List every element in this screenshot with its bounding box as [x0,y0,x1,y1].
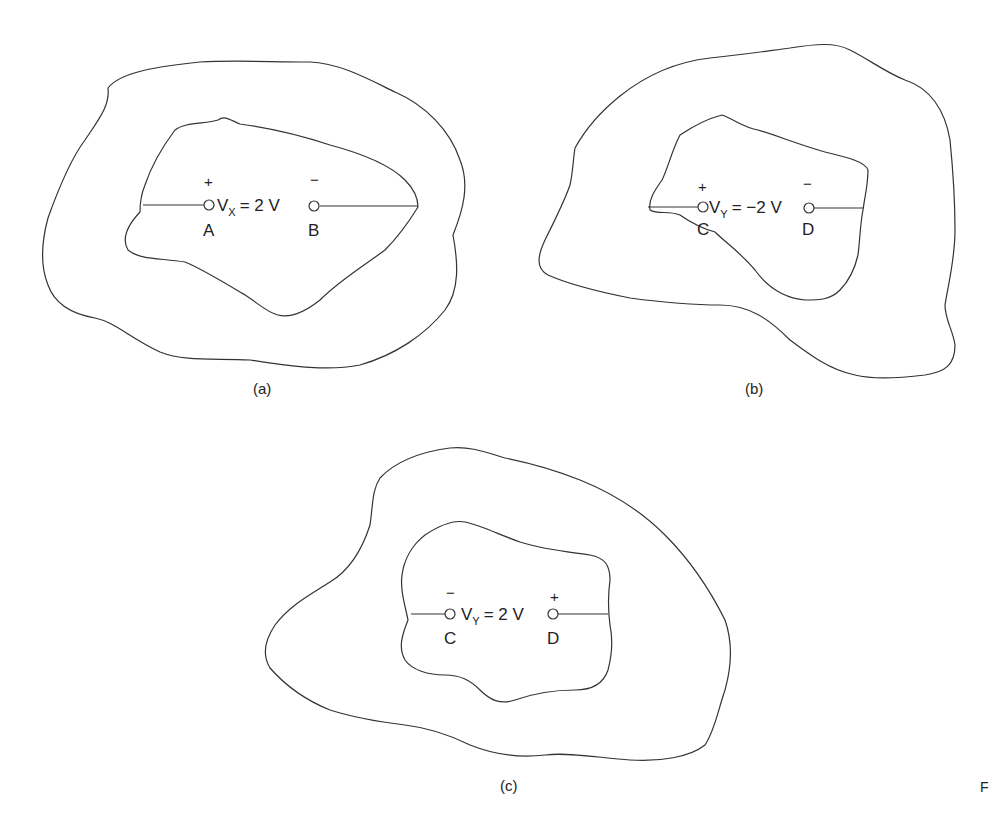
panel-a-plus-sign: + [204,174,213,189]
voltage-subscript: Y [720,208,727,220]
panel-a-caption: (a) [253,381,271,396]
panel-c-voltage-label: VY= 2 V [461,606,524,623]
panel-c-caption: (c) [500,778,518,793]
panel-b-plus-sign: + [698,179,707,194]
terminal-d-node-panel-c [548,609,558,619]
terminal-c-node-panel-c [445,609,455,619]
voltage-expression: = 2 V [240,196,280,215]
voltage-symbol: V [709,198,720,217]
terminal-a-node [204,200,214,210]
voltage-symbol: V [461,605,472,624]
terminal-d-label-panel-c: D [547,630,559,647]
panel-a-voltage-label: VX= 2 V [217,197,280,214]
panel-b-minus-sign: − [803,176,812,191]
panel-c-plus-sign: + [550,589,559,604]
panel-a-inner-region [125,118,418,316]
panel-a-minus-sign: − [310,172,319,187]
terminal-d-label: D [802,221,814,238]
terminal-a-label: A [203,222,214,239]
terminal-c-node [698,202,708,212]
terminal-b-node [309,201,319,211]
voltage-symbol: V [217,196,228,215]
panel-b-voltage-label: VY= −2 V [709,199,782,216]
terminal-d-node [804,203,814,213]
terminal-c-label: C [697,221,709,238]
voltage-subscript: Y [472,615,479,627]
edge-text-fragment: F [980,780,989,794]
voltage-expression: = 2 V [484,605,524,624]
terminal-c-label-panel-c: C [444,630,456,647]
voltage-subscript: X [228,206,235,218]
voltage-expression: = −2 V [732,198,782,217]
panel-b-caption: (b) [745,381,763,396]
panel-c-minus-sign: − [446,585,455,600]
terminal-b-label: B [308,222,319,239]
